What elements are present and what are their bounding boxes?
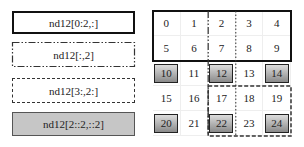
grid-cell: 4 bbox=[263, 11, 291, 36]
cell-value: 7 bbox=[219, 42, 225, 54]
cell-value: 15 bbox=[161, 92, 172, 104]
cell-value: 10 bbox=[154, 64, 178, 83]
grid-cell: 15 bbox=[153, 86, 181, 111]
grid-cell: 16 bbox=[181, 86, 209, 111]
cell-value: 4 bbox=[274, 17, 280, 29]
grid-cell: 0 bbox=[153, 11, 181, 36]
cell-value: 22 bbox=[209, 114, 233, 133]
grid-cell: 13 bbox=[236, 61, 264, 86]
cell-value: 14 bbox=[265, 64, 289, 83]
grid-cell: 5 bbox=[153, 36, 181, 61]
array-grid: 0 1 2 3 4 5 6 7 8 9 10 11 12 13 14 15 16… bbox=[153, 11, 291, 136]
legend-stride-2: nd12[2::2,::2] bbox=[12, 112, 135, 136]
cell-value: 8 bbox=[246, 42, 252, 54]
cell-value: 0 bbox=[164, 17, 170, 29]
grid-cell-highlighted: 22 bbox=[208, 111, 236, 136]
grid-cell-highlighted: 24 bbox=[263, 111, 291, 136]
cell-value: 1 bbox=[191, 17, 197, 29]
legend-rows-3-cols-2: nd12[3:,2:] bbox=[12, 78, 135, 103]
grid-cell: 2 bbox=[208, 11, 236, 36]
cell-value: 3 bbox=[246, 17, 252, 29]
grid-cell: 8 bbox=[236, 36, 264, 61]
grid-cell-highlighted: 14 bbox=[263, 61, 291, 86]
legend-label: nd12[3:,2:] bbox=[49, 85, 98, 97]
grid-cell: 18 bbox=[236, 86, 264, 111]
cell-value: 20 bbox=[154, 114, 178, 133]
cell-value: 24 bbox=[265, 114, 289, 133]
cell-value: 18 bbox=[244, 92, 255, 104]
cell-value: 6 bbox=[191, 42, 197, 54]
legend-label: nd12[0:2,:] bbox=[49, 17, 98, 29]
cell-value: 12 bbox=[209, 64, 233, 83]
grid-cell: 1 bbox=[181, 11, 209, 36]
cell-value: 16 bbox=[188, 92, 199, 104]
legend-label: nd12[:,2] bbox=[53, 49, 94, 61]
cell-value: 17 bbox=[216, 92, 227, 104]
cell-value: 2 bbox=[219, 17, 225, 29]
grid-cell-highlighted: 20 bbox=[153, 111, 181, 136]
grid-cell: 6 bbox=[181, 36, 209, 61]
grid-cell: 3 bbox=[236, 11, 264, 36]
cell-value: 19 bbox=[271, 92, 282, 104]
grid-cell: 17 bbox=[208, 86, 236, 111]
grid-cell-highlighted: 12 bbox=[208, 61, 236, 86]
cell-value: 11 bbox=[189, 67, 200, 79]
cell-value: 5 bbox=[164, 42, 170, 54]
legend-column-2: nd12[:,2] bbox=[12, 42, 135, 67]
grid-cell: 21 bbox=[181, 111, 209, 136]
grid-cell: 19 bbox=[263, 86, 291, 111]
cell-value: 23 bbox=[244, 117, 255, 129]
cell-value: 13 bbox=[244, 67, 255, 79]
legend-rows-0-2: nd12[0:2,:] bbox=[12, 11, 135, 34]
grid-cell: 23 bbox=[236, 111, 264, 136]
legend-label: nd12[2::2,::2] bbox=[43, 118, 104, 130]
cell-value: 9 bbox=[274, 42, 280, 54]
cell-value: 21 bbox=[188, 117, 199, 129]
grid-cell-highlighted: 10 bbox=[153, 61, 181, 86]
grid-cell: 7 bbox=[208, 36, 236, 61]
grid-cell: 11 bbox=[181, 61, 209, 86]
grid-cell: 9 bbox=[263, 36, 291, 61]
